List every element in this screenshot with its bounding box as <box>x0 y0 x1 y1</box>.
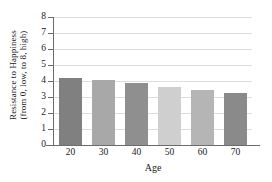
bars-layer <box>54 17 252 145</box>
y-tick-label-5: 5 <box>30 60 46 70</box>
y-tick-label-7: 7 <box>30 28 46 38</box>
y-tick-label-6: 6 <box>30 44 46 54</box>
y-tick-label-3: 3 <box>30 92 46 102</box>
bar-chart-figure: Resistance to Happiness (from 0, low, to… <box>0 0 272 182</box>
bar-50 <box>158 87 181 145</box>
y-tick-label-1: 1 <box>30 124 46 134</box>
y-tick-mark-7 <box>48 33 54 34</box>
bar-60 <box>191 90 214 145</box>
x-tick-label-60: 60 <box>188 147 218 157</box>
x-axis-tick-labels: 203040506070 <box>54 147 252 161</box>
gridline-0 <box>54 145 252 146</box>
y-tick-label-0: 0 <box>30 140 46 150</box>
y-tick-label-8: 8 <box>30 12 46 22</box>
y-tick-mark-1 <box>48 129 54 130</box>
y-tick-mark-5 <box>48 65 54 66</box>
x-tick-label-70: 70 <box>221 147 251 157</box>
x-tick-label-30: 30 <box>89 147 119 157</box>
bar-20 <box>59 78 82 145</box>
y-tick-label-4: 4 <box>30 76 46 86</box>
x-axis-title: Age <box>54 162 252 173</box>
x-tick-label-20: 20 <box>56 147 86 157</box>
y-tick-mark-4 <box>48 81 54 82</box>
y-tick-mark-6 <box>48 49 54 50</box>
y-axis-title-line-2: (from 0, low, to 8, high) <box>18 30 28 120</box>
y-tick-mark-2 <box>48 113 54 114</box>
y-tick-mark-3 <box>48 97 54 98</box>
y-tick-mark-0 <box>48 145 54 146</box>
bar-70 <box>224 93 247 145</box>
bar-40 <box>125 83 148 145</box>
x-tick-label-50: 50 <box>155 147 185 157</box>
y-tick-mark-8 <box>48 17 54 18</box>
plot-area <box>54 17 252 145</box>
y-tick-label-2: 2 <box>30 108 46 118</box>
y-axis-title-line-1: Resistance to Happiness <box>8 30 18 120</box>
x-tick-label-40: 40 <box>122 147 152 157</box>
y-axis-tick-labels: 012345678 <box>28 0 46 182</box>
bar-30 <box>92 80 115 145</box>
